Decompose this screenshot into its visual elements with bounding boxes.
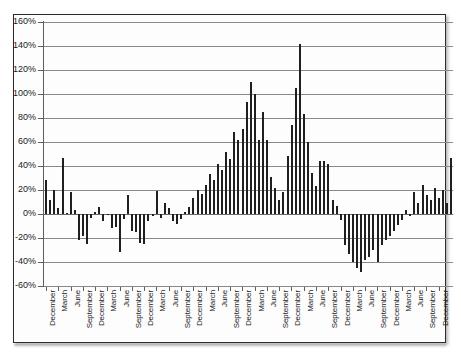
- bar: [127, 195, 129, 214]
- x-axis-tick-label: December: [147, 290, 155, 326]
- bar: [78, 214, 80, 240]
- y-axis-tick-label: -60%: [15, 281, 36, 290]
- bar: [225, 152, 227, 214]
- x-axis-tick-label: March: [307, 290, 315, 312]
- x-axis-tick-label: September: [429, 290, 437, 328]
- bar: [115, 214, 117, 227]
- x-axis-tick-label: March: [61, 290, 69, 312]
- x-axis-tick-label: September: [233, 290, 241, 328]
- scan-shadow: [14, 344, 446, 348]
- y-axis-tick-label: 100%: [13, 89, 36, 98]
- bar: [168, 208, 170, 214]
- x-axis-tick-label: December: [49, 290, 57, 326]
- x-axis-tick-label: December: [196, 290, 204, 326]
- bar: [393, 214, 395, 231]
- y-axis-tick: [38, 262, 43, 263]
- bar: [417, 203, 419, 214]
- bar: [176, 214, 178, 224]
- bar: [319, 161, 321, 214]
- bar: [107, 214, 109, 215]
- x-axis-tick-label: September: [86, 290, 94, 328]
- bar: [430, 200, 432, 214]
- y-axis-tick-label: -20%: [15, 233, 36, 242]
- x-axis-tick-label: December: [393, 290, 401, 326]
- bar: [426, 195, 428, 214]
- gridline: [44, 46, 453, 47]
- y-axis-tick-label: 60%: [18, 137, 36, 146]
- x-axis-tick-label: March: [258, 290, 266, 312]
- y-axis-tick: [38, 118, 43, 119]
- bar: [291, 125, 293, 214]
- y-axis-tick: [38, 214, 43, 215]
- bar: [282, 192, 284, 214]
- bar: [213, 180, 215, 214]
- gridline: [44, 94, 453, 95]
- x-axis-tick-label: June: [368, 290, 376, 307]
- x-axis-tick-label: June: [172, 290, 180, 307]
- bar: [270, 177, 272, 214]
- bar: [332, 200, 334, 214]
- y-axis-labels: 160%140%120%100%80%60%40%20%0%-20%-40%-6…: [0, 0, 36, 330]
- bar: [90, 214, 92, 218]
- bar: [315, 186, 317, 214]
- x-axis-tick-label: June: [221, 290, 229, 307]
- bar: [135, 214, 137, 232]
- y-axis-tick-label: 40%: [18, 161, 36, 170]
- bar: [131, 214, 133, 231]
- gridline: [44, 238, 453, 239]
- bar: [164, 203, 166, 214]
- x-axis-tick-label: June: [123, 290, 131, 307]
- bar: [348, 214, 350, 254]
- bar: [360, 214, 362, 272]
- bar: [94, 212, 96, 214]
- bar: [180, 214, 182, 219]
- bar: [229, 159, 231, 214]
- bar: [401, 214, 403, 220]
- x-axis-labels: DecemberMarchJuneSeptemberDecemberMarchJ…: [44, 290, 453, 342]
- bar: [385, 214, 387, 240]
- y-axis-tick: [38, 286, 43, 287]
- bar: [209, 174, 211, 214]
- bar: [446, 203, 448, 214]
- bar: [295, 88, 297, 214]
- bar: [143, 214, 145, 244]
- bar: [303, 114, 305, 214]
- bar: [368, 214, 370, 257]
- x-axis-tick-label: September: [135, 290, 143, 328]
- bar: [192, 198, 194, 214]
- x-axis-tick-label: March: [356, 290, 364, 312]
- bar: [258, 140, 260, 214]
- gridline: [44, 262, 453, 263]
- bar: [86, 214, 88, 244]
- gridline: [44, 142, 453, 143]
- bar: [352, 214, 354, 262]
- bar: [217, 164, 219, 214]
- bar: [254, 94, 256, 214]
- bar: [237, 140, 239, 214]
- chart-figure: 160%140%120%100%80%60%40%20%0%-20%-40%-6…: [0, 0, 461, 361]
- gridline: [44, 190, 453, 191]
- bar: [438, 198, 440, 214]
- bar: [98, 207, 100, 214]
- gridline: [44, 214, 453, 215]
- plot-area: [44, 22, 453, 286]
- bar: [233, 132, 235, 214]
- bar: [327, 164, 329, 214]
- y-axis-tick-label: 160%: [13, 17, 36, 26]
- bar: [299, 44, 301, 214]
- bar: [111, 214, 113, 228]
- bar: [70, 192, 72, 214]
- bar: [274, 188, 276, 214]
- y-axis-tick: [38, 238, 43, 239]
- bar: [381, 214, 383, 245]
- bar: [397, 214, 399, 225]
- bar: [287, 156, 289, 214]
- bar: [242, 129, 244, 214]
- bar: [62, 158, 64, 214]
- y-axis-tick: [38, 190, 43, 191]
- x-axis-tick-label: December: [344, 290, 352, 326]
- x-axis-tick-label: September: [380, 290, 388, 328]
- x-axis-tick-label: June: [74, 290, 82, 307]
- bar: [74, 210, 76, 214]
- x-axis-tick-label: March: [209, 290, 217, 312]
